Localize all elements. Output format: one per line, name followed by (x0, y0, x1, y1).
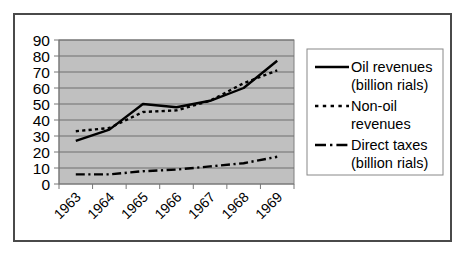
y-tick-label: 90 (33, 32, 51, 49)
y-tick-label: 80 (33, 48, 51, 65)
legend-label-direct-taxes-line2: (billion rials) (351, 155, 428, 171)
x-tick-label: 1963 (51, 189, 84, 222)
legend-label-direct-taxes-line1: Direct taxes (351, 137, 428, 153)
y-tick-label: 70 (33, 64, 51, 81)
x-tick-label: 1967 (185, 189, 218, 222)
y-tick-label: 60 (33, 80, 51, 97)
legend-label-non-oil-revenues-line1: Non-oil (351, 98, 397, 114)
x-tick-label: 1969 (252, 189, 285, 222)
y-tick-label: 50 (33, 96, 51, 113)
y-tick-label: 40 (33, 112, 51, 129)
x-axis-ticks (59, 184, 294, 189)
x-tick-label: 1968 (218, 189, 251, 222)
y-tick-label: 10 (33, 160, 51, 177)
plot-background (59, 40, 294, 184)
x-tick-label: 1965 (118, 189, 151, 222)
y-axis-tick-labels: 0102030405060708090 (33, 32, 51, 193)
x-tick-label: 1964 (84, 189, 117, 222)
y-tick-label: 0 (41, 176, 50, 193)
chart-frame: 0102030405060708090 19631964196519661967… (13, 13, 452, 242)
legend-label-oil-revenues-line2: (billion rials) (351, 77, 428, 93)
legend-label-oil-revenues-line1: Oil revenues (351, 59, 432, 75)
y-axis-ticks (54, 40, 59, 184)
y-tick-label: 30 (33, 128, 51, 145)
x-axis-tick-labels: 1963196419651966196719681969 (51, 189, 286, 222)
legend-label-non-oil-revenues-line2: revenues (351, 116, 411, 132)
y-tick-label: 20 (33, 144, 51, 161)
chart-legend: Oil revenues (billion rials) Non-oil rev… (307, 49, 443, 175)
revenues-line-chart: 0102030405060708090 19631964196519661967… (15, 15, 450, 240)
x-tick-label: 1966 (151, 189, 184, 222)
